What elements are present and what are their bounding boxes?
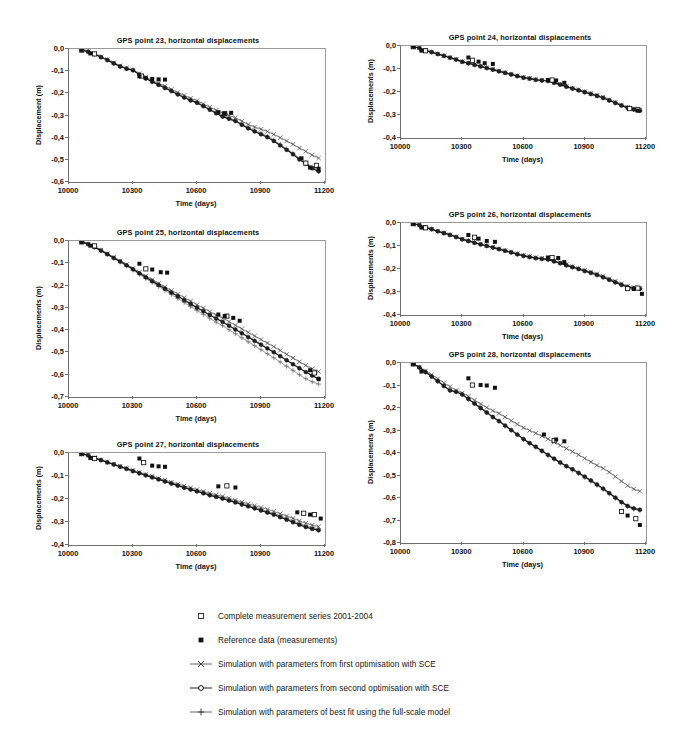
chart-title-gps-27: GPS point 27, horizontal displacements	[38, 440, 338, 449]
chart-title-gps-28: GPS point 28, horizontal displacements	[370, 350, 670, 359]
y-tick-label: -0,5	[42, 347, 64, 356]
y-tick-mark	[65, 92, 68, 93]
y-tick-label: 0,0	[374, 358, 396, 367]
y-tick-mark	[65, 70, 68, 71]
chart-title-gps-26: GPS point 26, horizontal displacements	[370, 210, 670, 219]
y-tick-label: -0,8	[374, 538, 396, 547]
x-tick-label: 10600	[512, 142, 533, 151]
y-tick-mark	[397, 45, 400, 46]
y-tick-label: -0,4	[374, 133, 396, 142]
y-tick-mark	[397, 68, 400, 69]
y-tick-label: -0,3	[374, 287, 396, 296]
y-tick-mark	[397, 91, 400, 92]
y-tick-mark	[397, 520, 400, 521]
y-tick-mark	[65, 374, 68, 375]
x-tick-label: 10900	[573, 142, 594, 151]
y-axis-label: Displacements (m)	[366, 59, 375, 123]
y-axis-label: Displacement (m)	[34, 85, 43, 145]
x-tick-mark	[584, 542, 585, 545]
x-axis-label: Time (days)	[176, 562, 217, 571]
x-tick-mark	[68, 396, 69, 399]
y-tick-label: -0,5	[42, 154, 64, 163]
x-tick-label: 10000	[58, 549, 79, 558]
y-tick-mark	[397, 222, 400, 223]
x-tick-mark	[584, 314, 585, 317]
y-tick-mark	[65, 498, 68, 499]
x-tick-label: 10600	[186, 549, 207, 558]
legend-item-3: Simulation with parameters from second o…	[0, 676, 676, 700]
x-axis-label: Time (days)	[176, 199, 217, 208]
y-tick-label: -0,1	[42, 258, 64, 267]
y-axis-label: Displacements (m)	[34, 286, 43, 350]
y-tick-mark	[65, 521, 68, 522]
y-tick-label: -0,3	[374, 110, 396, 119]
x-tick-mark	[523, 137, 524, 140]
x-tick-label: 11200	[635, 547, 655, 556]
plot-area-gps-25	[68, 240, 326, 398]
y-tick-mark	[397, 114, 400, 115]
y-tick-mark	[397, 497, 400, 498]
x-tick-mark	[461, 314, 462, 317]
y-tick-label: -0,6	[374, 493, 396, 502]
legend-item-2: Simulation with parameters from first op…	[0, 652, 676, 676]
x-tick-mark	[523, 542, 524, 545]
y-tick-mark	[397, 542, 400, 543]
y-tick-mark	[65, 544, 68, 545]
x-tick-label: 10300	[122, 186, 143, 195]
x-tick-label: 10000	[390, 142, 411, 151]
y-tick-mark	[65, 452, 68, 453]
figure-legend: Complete measurement series 2001-2004Ref…	[0, 604, 676, 724]
legend-label: Simulation with parameters of best fit u…	[218, 708, 450, 717]
y-tick-mark	[65, 159, 68, 160]
x-tick-label: 11200	[635, 319, 655, 328]
x-tick-label: 10600	[512, 319, 533, 328]
plot-area-gps-23	[68, 48, 326, 183]
y-tick-label: 0,0	[42, 448, 64, 457]
legend-marker-filled-square	[184, 634, 218, 646]
y-tick-mark	[397, 475, 400, 476]
y-axis-label: Displacements (m)	[366, 236, 375, 300]
y-tick-label: 0,0	[42, 44, 64, 53]
y-tick-label: -0,4	[374, 448, 396, 457]
y-tick-label: -0,2	[374, 87, 396, 96]
y-tick-mark	[397, 314, 400, 315]
y-tick-mark	[65, 240, 68, 241]
x-axis-label: Time (days)	[502, 332, 543, 341]
x-tick-mark	[132, 181, 133, 184]
y-tick-mark	[65, 329, 68, 330]
x-tick-mark	[645, 314, 646, 317]
x-tick-label: 10600	[186, 401, 207, 410]
x-axis-label: Time (days)	[502, 155, 543, 164]
y-tick-label: -0,2	[42, 280, 64, 289]
x-tick-mark	[324, 544, 325, 547]
x-tick-label: 11200	[314, 186, 334, 195]
legend-label: Simulation with parameters from second o…	[218, 684, 449, 693]
y-tick-label: 0,0	[42, 236, 64, 245]
x-tick-label: 10300	[451, 547, 472, 556]
x-tick-label: 10900	[250, 186, 271, 195]
y-tick-mark	[65, 48, 68, 49]
x-tick-mark	[461, 137, 462, 140]
chart-title-gps-23: GPS point 23, horizontal displacements	[38, 36, 338, 45]
x-tick-label: 10300	[122, 549, 143, 558]
y-tick-mark	[397, 268, 400, 269]
x-tick-label: 10000	[58, 401, 79, 410]
x-tick-mark	[324, 181, 325, 184]
y-tick-label: 0,0	[374, 41, 396, 50]
x-tick-mark	[196, 544, 197, 547]
y-tick-mark	[65, 137, 68, 138]
x-tick-label: 11200	[635, 142, 655, 151]
y-tick-label: -0,4	[42, 132, 64, 141]
x-axis-label: Time (days)	[176, 414, 217, 423]
y-tick-mark	[65, 351, 68, 352]
legend-item-1: Reference data (measurements)	[0, 628, 676, 652]
x-tick-label: 10000	[390, 547, 411, 556]
y-tick-mark	[397, 245, 400, 246]
y-tick-mark	[65, 285, 68, 286]
legend-marker-line-circle	[184, 682, 218, 694]
y-tick-label: -0,2	[374, 403, 396, 412]
x-tick-label: 10000	[390, 319, 411, 328]
y-tick-label: 0,0	[374, 218, 396, 227]
y-tick-label: -0,3	[42, 110, 64, 119]
y-tick-label: -0,3	[42, 302, 64, 311]
